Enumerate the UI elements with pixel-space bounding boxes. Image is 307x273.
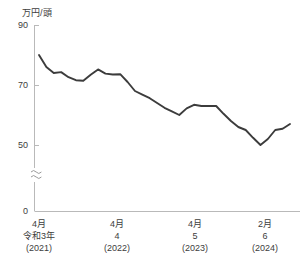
x-tick-2022-month: 4月 [82,218,152,230]
price-line-chart: 万円/頭 90 70 50 0 4月 令和3年 (2021) 4月 4 (202… [0,0,307,273]
x-tick-group-2024: 2月 6 (2024) [230,218,300,254]
x-tick-2024-era: 6 [230,230,300,242]
x-tick-2023-month: 4月 [160,218,230,230]
axis-break-icon [31,171,41,179]
x-tick-2021-year: (2021) [4,242,74,254]
x-tick-2024-year: (2024) [230,242,300,254]
x-tick-2024-month: 2月 [230,218,300,230]
x-tick-2022-era: 4 [82,230,152,242]
x-tick-2023-year: (2023) [160,242,230,254]
x-tick-group-2021: 4月 令和3年 (2021) [4,218,74,254]
x-tick-group-2023: 4月 5 (2023) [160,218,230,254]
x-tick-2022-year: (2022) [82,242,152,254]
axes [35,25,301,212]
x-tick-2021-era: 令和3年 [4,230,74,242]
x-tick-group-2022: 4月 4 (2022) [82,218,152,254]
x-tick-2021-month: 4月 [4,218,74,230]
x-tick-2023-era: 5 [160,230,230,242]
price-series-line [39,55,290,145]
